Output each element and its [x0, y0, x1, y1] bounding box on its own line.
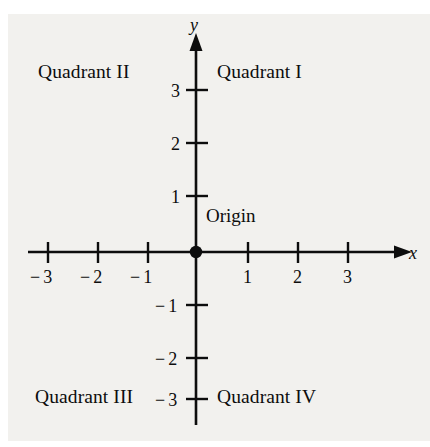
- digit: 1: [168, 296, 178, 316]
- minus-sign: −: [80, 267, 91, 287]
- x-tick-label-neg1: −1: [130, 268, 153, 286]
- quadrant-label-i: Quadrant I: [217, 62, 302, 82]
- digit: 3: [168, 390, 178, 410]
- y-tick-label-neg2: −2: [155, 350, 178, 368]
- minus-sign: −: [155, 390, 166, 410]
- minus-sign: −: [130, 267, 141, 287]
- x-tick-label-pos1: 1: [243, 268, 252, 286]
- x-tick-label-neg2: −2: [80, 268, 103, 286]
- x-axis-label: x: [409, 244, 417, 262]
- y-axis-arrowhead: [190, 33, 203, 51]
- digit: 2: [168, 349, 178, 369]
- minus-sign: −: [155, 349, 166, 369]
- y-axis-label: y: [190, 16, 198, 34]
- y-tick-label-neg1: −1: [155, 297, 178, 315]
- quadrant-label-ii: Quadrant II: [38, 62, 130, 82]
- quadrant-label-iv: Quadrant IV: [217, 387, 316, 407]
- coordinate-plane-figure: x y Origin Quadrant II Quadrant I Quadra…: [0, 0, 430, 447]
- x-tick-label-neg3: −3: [30, 268, 53, 286]
- y-tick-label-pos1: 1: [171, 188, 180, 206]
- x-tick-label-pos2: 2: [293, 268, 302, 286]
- origin-label: Origin: [206, 206, 256, 225]
- digit: 3: [43, 267, 53, 287]
- quadrant-label-iii: Quadrant III: [35, 387, 133, 407]
- minus-sign: −: [30, 267, 41, 287]
- x-tick-label-pos3: 3: [343, 268, 352, 286]
- digit: 2: [93, 267, 103, 287]
- y-tick-label-pos3: 3: [171, 82, 180, 100]
- y-tick-label-neg3: −3: [155, 391, 178, 409]
- digit: 1: [143, 267, 153, 287]
- minus-sign: −: [155, 296, 166, 316]
- y-tick-label-pos2: 2: [171, 135, 180, 153]
- origin-point: [190, 246, 202, 258]
